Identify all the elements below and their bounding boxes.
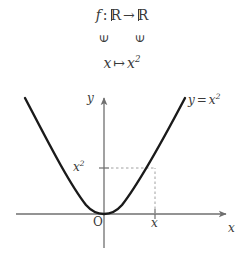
codomain-set-symbol: R bbox=[137, 8, 149, 22]
definition-line-mapping: x↦x2 bbox=[0, 55, 244, 70]
curve-label-rhs-base: x bbox=[209, 93, 216, 107]
y-tick-label: x2 bbox=[73, 160, 85, 173]
definition-line-membership: ∈∈ bbox=[0, 32, 244, 45]
curve-label-lhs: y bbox=[188, 93, 195, 107]
curve-equation-label: y=x2 bbox=[188, 93, 220, 106]
domain-set-symbol: R bbox=[110, 8, 122, 22]
mapping-output-exponent: 2 bbox=[135, 54, 141, 64]
graph-canvas bbox=[0, 88, 244, 255]
y-tick-label-exponent: 2 bbox=[80, 159, 85, 168]
x-tick-label: x bbox=[151, 217, 158, 229]
y-tick-label-base: x bbox=[73, 160, 80, 174]
maps-to-icon: ↦ bbox=[111, 55, 127, 71]
rotated-element-of-icon-left: ∈ bbox=[98, 34, 111, 44]
mapping-output-base: x bbox=[127, 55, 135, 71]
arrow-icon: → bbox=[121, 7, 137, 23]
colon-symbol: : bbox=[101, 7, 110, 23]
x-axis-label: x bbox=[228, 222, 235, 234]
equals-sign: = bbox=[195, 93, 209, 107]
y-axis-label: y bbox=[87, 92, 94, 104]
curve-label-rhs-exponent: 2 bbox=[216, 92, 221, 101]
math-figure-page: f:R→R ∈∈ x↦x2 bbox=[0, 0, 244, 255]
rotated-element-of-icon-right: ∈ bbox=[133, 34, 146, 44]
parabola-curve bbox=[25, 98, 185, 214]
origin-label: O bbox=[93, 216, 103, 228]
parabola-graph: y x O x x2 y=x2 bbox=[0, 88, 244, 255]
definition-line-signature: f:R→R bbox=[0, 8, 244, 22]
